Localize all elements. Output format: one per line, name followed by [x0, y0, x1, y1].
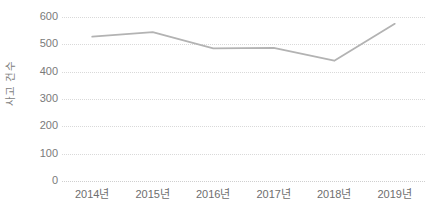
series-layer	[0, 0, 431, 219]
x-tick-label: 2015년	[118, 189, 188, 200]
x-tick-label: 2017년	[239, 189, 309, 200]
x-tick-label: 2014년	[57, 189, 127, 200]
x-tick-label: 2016년	[178, 189, 248, 200]
series-line-accident-count	[92, 24, 395, 61]
x-tick-label: 2019년	[360, 189, 430, 200]
line-chart: 사고 건수 0100200300400500600 2014년2015년2016…	[0, 0, 431, 219]
x-tick-label: 2018년	[299, 189, 369, 200]
